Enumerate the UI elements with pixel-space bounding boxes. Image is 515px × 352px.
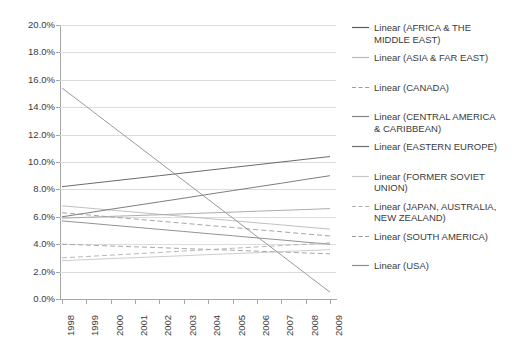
x-axis-tick-label: 2001 (139, 315, 149, 336)
x-axis-tick (257, 300, 258, 304)
y-axis-labels: 20.0%18.0%16.0%14.0%12.0%10.0%8.0%6.0%4.… (0, 0, 55, 310)
x-axis-tick (62, 300, 63, 304)
legend-item[interactable]: Linear (AFRICA & THE MIDDLE EAST) (352, 22, 512, 45)
legend-item-label: Linear (EASTERN EUROPE) (374, 141, 497, 153)
x-axis-tick (111, 300, 112, 304)
x-axis-tick-label: 2007 (285, 315, 295, 336)
x-axis-tick-label: 2002 (163, 315, 173, 336)
trendline-usa (62, 88, 330, 292)
x-axis-labels: 1998199920002001200220032004200520062007… (60, 306, 350, 352)
legend-item[interactable]: Linear (FORMER SOVIET UNION) (352, 171, 512, 194)
plot-area (60, 25, 336, 299)
line-swatch-solid-dark-icon (352, 145, 369, 155)
x-axis-tick (184, 300, 185, 304)
y-axis-tick-label: 8.0% (33, 184, 55, 194)
legend-item-label: Linear (CANADA) (374, 82, 449, 94)
line-swatch-solid-pale-icon (352, 175, 369, 185)
x-axis-tick (208, 300, 209, 304)
trendline-canada (62, 244, 330, 254)
legend-item[interactable]: Linear (USA) (352, 260, 512, 272)
x-axis-tick-label: 2008 (310, 315, 320, 336)
y-axis-tick-label: 18.0% (28, 47, 55, 57)
x-axis-tick-label: 1999 (90, 315, 100, 336)
line-swatch-solid-dark-icon (352, 26, 369, 36)
chart-legend: Linear (AFRICA & THE MIDDLE EAST)Linear … (352, 22, 512, 272)
x-axis-tick-label: 2005 (237, 315, 247, 336)
x-axis-tick-label: 1998 (66, 315, 76, 336)
x-axis-tick (306, 300, 307, 304)
x-axis-tick (135, 300, 136, 304)
y-axis-tick-label: 14.0% (28, 102, 55, 112)
line-swatch-dashed-icon (352, 205, 369, 215)
x-axis-tick-label: 2003 (188, 315, 198, 336)
legend-item-label: Linear (FORMER SOVIET UNION) (374, 171, 504, 194)
legend-item-label: Linear (AFRICA & THE MIDDLE EAST) (374, 22, 504, 45)
legend-item-label: Linear (JAPAN, AUSTRALIA, NEW ZEALAND) (374, 201, 504, 224)
legend-item-label: Linear (SOUTH AMERICA) (374, 231, 488, 243)
legend-item[interactable]: Linear (CANADA) (352, 82, 512, 94)
legend-item[interactable]: Linear (ASIA & FAR EAST) (352, 52, 512, 64)
y-axis-tick-label: 12.0% (28, 130, 55, 140)
x-axis-tick-label: 2004 (212, 315, 222, 336)
line-swatch-solid-mid-icon (352, 115, 369, 125)
x-axis-tick (330, 300, 331, 304)
x-axis-tick-label: 2009 (334, 315, 344, 336)
legend-item[interactable]: Linear (EASTERN EUROPE) (352, 141, 512, 153)
legend-item-label: Linear (CENTRAL AMERICA & CARIBBEAN) (374, 111, 504, 134)
trendline-japan-australia-new-zealand (62, 243, 330, 258)
series-lines (60, 25, 336, 299)
y-axis-tick-label: 16.0% (28, 75, 55, 85)
legend-item-label: Linear (USA) (374, 260, 429, 272)
legend-item[interactable]: Linear (SOUTH AMERICA) (352, 231, 512, 243)
y-axis-tick-label: 4.0% (33, 239, 55, 249)
x-axis-tick (233, 300, 234, 304)
x-axis-tick (159, 300, 160, 304)
line-swatch-solid-mid-icon (352, 264, 369, 274)
y-axis-tick-label: 20.0% (28, 20, 55, 30)
x-axis-tick (281, 300, 282, 304)
legend-item[interactable]: Linear (CENTRAL AMERICA & CARIBBEAN) (352, 111, 512, 134)
trendline-former-soviet-union (62, 250, 330, 261)
legend-item-label: Linear (ASIA & FAR EAST) (374, 52, 488, 64)
y-axis-tick-label: 2.0% (33, 267, 55, 277)
line-swatch-solid-light-icon (352, 56, 369, 66)
x-axis-tick-label: 2000 (115, 315, 125, 336)
line-swatch-dashed-icon (352, 86, 369, 96)
trendline-asia-far-east (62, 206, 330, 229)
y-axis-tick-label: 10.0% (28, 157, 55, 167)
legend-item[interactable]: Linear (JAPAN, AUSTRALIA, NEW ZEALAND) (352, 201, 512, 224)
y-axis-tick-label: 0.0% (33, 294, 55, 304)
x-axis-tick (86, 300, 87, 304)
line-swatch-dashed-icon (352, 235, 369, 245)
trendline-western-europe (62, 209, 330, 219)
y-axis-tick-label: 6.0% (33, 212, 55, 222)
chart-container: 20.0%18.0%16.0%14.0%12.0%10.0%8.0%6.0%4.… (0, 0, 515, 352)
x-axis-tick-label: 2006 (261, 315, 271, 336)
